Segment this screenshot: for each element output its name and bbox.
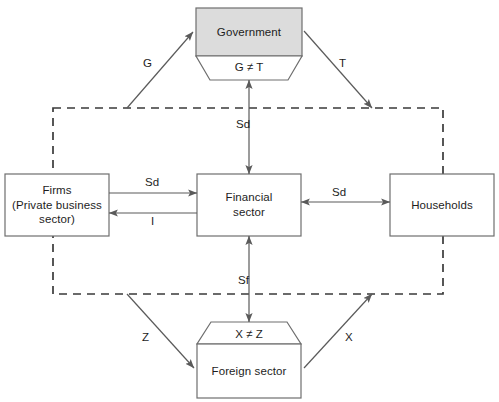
firms-box-shape[interactable] [5,174,109,236]
flow-diagram [0,0,499,402]
flow-arrow-g [127,32,193,108]
flow-arrow-x [304,294,372,368]
households-box-shape[interactable] [390,174,494,236]
foreign-box-shape[interactable] [197,344,301,398]
financial-box-shape[interactable] [197,174,301,236]
government-balance-trapezoid [196,56,302,80]
foreign-balance-trapezoid [197,322,301,344]
government-box-shape[interactable] [196,8,302,56]
flow-arrow-z [127,294,194,368]
flow-arrow-t [304,31,372,108]
diagram-canvas: Government Firms (Private business secto… [0,0,499,402]
